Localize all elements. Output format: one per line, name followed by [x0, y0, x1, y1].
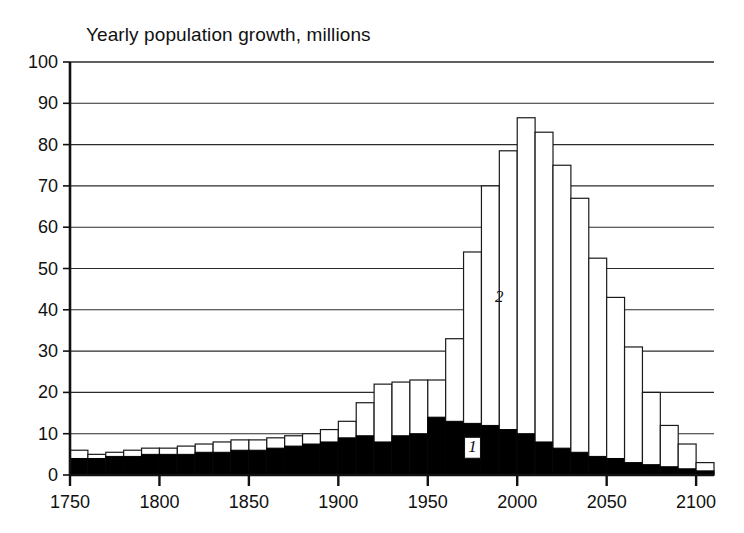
ytick-label: 40: [38, 300, 58, 320]
bar-segment-series1: [499, 430, 517, 475]
ytick-label: 50: [38, 259, 58, 279]
ytick-label: 90: [38, 93, 58, 113]
bar-segment-series2: [607, 297, 625, 475]
bar-segment-series2: [553, 165, 571, 475]
xtick-label: 1800: [139, 492, 179, 512]
xtick-label: 2050: [587, 492, 627, 512]
bar-segment-series1: [481, 425, 499, 475]
bar-segment-series1: [303, 444, 321, 475]
bar-segment-series1: [642, 465, 660, 475]
bar-segment-series1: [213, 452, 231, 475]
bar-segment-series1: [159, 454, 177, 475]
bar-segment-series1: [320, 442, 338, 475]
bar-segment-series1: [106, 456, 124, 475]
bar-segment-series1: [356, 436, 374, 475]
ytick-label: 80: [38, 135, 58, 155]
bar-segment-series1: [177, 454, 195, 475]
bar-segment-series1: [553, 448, 571, 475]
bar-segment-series1: [142, 454, 160, 475]
bar-segment-series1: [571, 452, 589, 475]
bar-segment-series1: [410, 434, 428, 475]
bar-segment-series1: [124, 456, 142, 475]
bar-segment-series1: [625, 463, 643, 475]
bar-segment-series1: [195, 452, 213, 475]
bar-segment-series2: [499, 151, 517, 475]
bar-segment-series1: [231, 450, 249, 475]
bar-segment-series1: [589, 456, 607, 475]
ytick-label: 10: [38, 424, 58, 444]
bar-segment-series1: [88, 458, 106, 475]
bar-segment-series1: [285, 446, 303, 475]
bar-segment-series1: [428, 417, 446, 475]
bar-segment-series1: [535, 442, 553, 475]
ytick-label: 0: [48, 465, 58, 485]
ytick-label: 70: [38, 176, 58, 196]
bar-segment-series2: [589, 258, 607, 475]
xtick-label: 1900: [318, 492, 358, 512]
bar-segment-series1: [392, 436, 410, 475]
bar-segment-series2: [571, 198, 589, 475]
chart-plot-area: 0102030405060708090100175018001850190019…: [0, 0, 744, 533]
series-label-2: 2: [495, 287, 504, 306]
bar-segment-series1: [517, 434, 535, 475]
xtick-label: 1850: [229, 492, 269, 512]
bar-segment-series1: [267, 448, 285, 475]
series-label-1: 1: [468, 437, 477, 456]
bar-segment-series1: [374, 442, 392, 475]
ytick-label: 20: [38, 382, 58, 402]
ytick-label: 60: [38, 217, 58, 237]
ytick-label: 100: [28, 52, 58, 72]
chart-figure: Yearly population growth, millions 01020…: [0, 0, 744, 533]
bar-segment-series1: [338, 438, 356, 475]
bar-segment-series1: [446, 421, 464, 475]
xtick-label: 1750: [50, 492, 90, 512]
bar-segment-series2: [517, 118, 535, 475]
bar-segment-series1: [607, 458, 625, 475]
xtick-label: 1950: [408, 492, 448, 512]
ytick-label: 30: [38, 341, 58, 361]
bar-segment-series2: [535, 132, 553, 475]
bar-segment-series2: [625, 347, 643, 475]
bar-segment-series2: [642, 392, 660, 475]
bar-segment-series1: [249, 450, 267, 475]
bar-segment-series1: [70, 458, 88, 475]
xtick-label: 2000: [497, 492, 537, 512]
xtick-label: 2100: [676, 492, 716, 512]
